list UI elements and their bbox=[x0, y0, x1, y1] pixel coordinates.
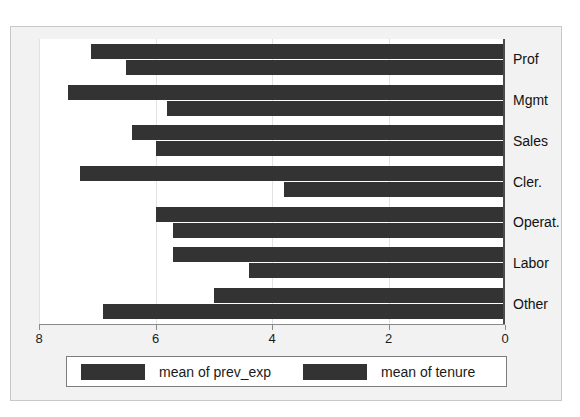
bar-prof-series1 bbox=[91, 44, 505, 59]
chart-frame: 86420 ProfMgmtSalesCler.Operat.LaborOthe… bbox=[10, 26, 562, 401]
category-label-labor: Labor bbox=[513, 255, 549, 271]
bar-prof-series2 bbox=[126, 60, 505, 75]
x-tick-4 bbox=[272, 325, 273, 330]
x-tick-6 bbox=[156, 325, 157, 330]
bar-mgmt-series1 bbox=[68, 85, 505, 100]
legend-label-2: mean of tenure bbox=[381, 364, 475, 380]
x-tick-0 bbox=[505, 325, 506, 330]
bar-operat-series1 bbox=[156, 207, 506, 222]
legend-entry-2: mean of tenure bbox=[303, 363, 475, 380]
legend-swatch-1 bbox=[81, 364, 145, 380]
x-tick-label-4: 4 bbox=[268, 331, 275, 346]
gridline-8 bbox=[39, 39, 40, 324]
legend-swatch-2 bbox=[303, 364, 367, 380]
category-label-sales: Sales bbox=[513, 133, 548, 149]
x-tick-label-0: 0 bbox=[501, 331, 508, 346]
bar-cler-series2 bbox=[284, 182, 505, 197]
bar-cler-series1 bbox=[80, 166, 505, 181]
bar-sales-series2 bbox=[156, 141, 506, 156]
x-tick-label-8: 8 bbox=[35, 331, 42, 346]
category-label-cler: Cler. bbox=[513, 174, 542, 190]
y-axis-line bbox=[503, 39, 505, 324]
bar-labor-series2 bbox=[249, 263, 505, 278]
gridline-4 bbox=[272, 39, 273, 324]
category-label-prof: Prof bbox=[513, 51, 539, 67]
chart-legend: mean of prev_expmean of tenure bbox=[66, 356, 507, 387]
bar-other-series2 bbox=[103, 304, 505, 319]
x-tick-8 bbox=[39, 325, 40, 330]
bar-operat-series2 bbox=[173, 223, 505, 238]
bar-sales-series1 bbox=[132, 125, 505, 140]
category-label-operat: Operat. bbox=[513, 214, 560, 230]
x-tick-2 bbox=[389, 325, 390, 330]
category-label-other: Other bbox=[513, 296, 548, 312]
category-label-mgmt: Mgmt bbox=[513, 92, 548, 108]
bar-labor-series1 bbox=[173, 247, 505, 262]
x-tick-label-2: 2 bbox=[385, 331, 392, 346]
x-tick-label-6: 6 bbox=[152, 331, 159, 346]
bar-other-series1 bbox=[214, 288, 505, 303]
legend-entry-1: mean of prev_exp bbox=[81, 363, 271, 380]
bar-mgmt-series2 bbox=[167, 101, 505, 116]
clipped-text-above-chart: of of of of of of bbox=[0, 0, 580, 12]
plot-area bbox=[39, 39, 505, 324]
gridline-6 bbox=[156, 39, 157, 324]
legend-label-1: mean of prev_exp bbox=[159, 364, 271, 380]
